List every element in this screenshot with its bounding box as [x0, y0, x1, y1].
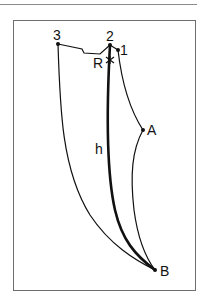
curve-A-B [132, 130, 155, 270]
curve-1-A [118, 50, 143, 130]
label-point-2: 2 [106, 28, 114, 44]
curve-h [108, 45, 155, 270]
top-edge-line [58, 44, 110, 54]
label-point-1: 1 [120, 42, 128, 58]
point-A-dot [141, 128, 145, 132]
label-point-3: 3 [53, 27, 61, 43]
label-point-B: B [160, 263, 169, 279]
left-curve [58, 44, 155, 270]
label-point-A: A [147, 122, 157, 138]
point-B-dot [153, 268, 157, 272]
diagram-frame [14, 21, 196, 291]
point-R-star-icon [106, 56, 114, 64]
label-curve-h: h [95, 141, 103, 157]
pattern-diagram: 3 2 1 R A B h [0, 0, 207, 299]
label-point-R: R [93, 55, 103, 71]
